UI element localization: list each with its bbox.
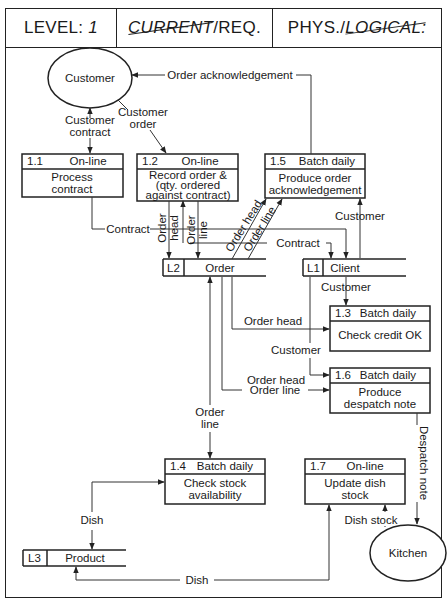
process-1-3[interactable]: 1.3 Batch daily Check credit OK (330, 306, 430, 351)
svg-text:head: head (168, 215, 180, 241)
data-flow-diagram: Customer Kitchen 1.1 On-line Process con… (0, 0, 448, 606)
svg-text:Contract: Contract (276, 237, 320, 249)
svg-text:Batch daily: Batch daily (360, 307, 417, 319)
svg-text:Order: Order (205, 262, 235, 274)
svg-text:line: line (197, 221, 209, 239)
flow-order-head-to-l2: Order head (156, 201, 180, 258)
svg-text:Check stock: Check stock (184, 477, 247, 489)
svg-text:Dish: Dish (185, 574, 208, 586)
svg-text:Batch daily: Batch daily (197, 460, 254, 472)
flow-order-line-to-1-4: Order line (195, 277, 225, 458)
svg-text:L1: L1 (307, 262, 320, 274)
svg-text:line: line (201, 418, 219, 430)
svg-text:Client: Client (330, 262, 360, 274)
external-kitchen[interactable]: Kitchen (370, 525, 446, 581)
svg-text:Despatch note: Despatch note (418, 426, 430, 500)
svg-text:Customer: Customer (321, 281, 371, 293)
svg-text:Order head: Order head (244, 315, 302, 327)
process-1-6[interactable]: 1.6 Batch daily Produce despatch note (330, 368, 430, 413)
flow-dish-1-7-l3: Dish (76, 505, 329, 586)
svg-text:Process: Process (51, 171, 93, 183)
svg-text:Dish: Dish (80, 514, 103, 526)
flow-customer-order: Customer order (118, 100, 168, 153)
svg-text:against contract): against contract) (145, 189, 230, 201)
svg-text:Order: Order (156, 213, 168, 243)
flow-order-to-1-6: Order head Order line (222, 277, 329, 396)
svg-text:Order line: Order line (250, 384, 301, 396)
svg-text:contract: contract (70, 126, 112, 138)
flow-contract-to-l1: Contract Contract (92, 197, 346, 258)
svg-text:1.2: 1.2 (142, 155, 158, 167)
svg-text:Contract: Contract (106, 223, 150, 235)
svg-text:Customer: Customer (118, 106, 168, 118)
svg-text:Update dish: Update dish (324, 477, 385, 489)
process-1-1[interactable]: 1.1 On-line Process contract (22, 154, 123, 197)
process-1-4[interactable]: 1.4 Batch daily Check stock availability (165, 459, 265, 504)
flow-order-line-to-l2: Order line (183, 201, 209, 258)
svg-text:despatch note: despatch note (344, 398, 416, 410)
process-type: On-line (69, 155, 106, 167)
svg-text:acknowledgement: acknowledgement (269, 184, 363, 196)
svg-text:Order acknowledgement: Order acknowledgement (167, 69, 293, 81)
svg-text:Customer: Customer (271, 344, 321, 356)
process-1-2[interactable]: 1.2 On-line Record order & (qty. ordered… (137, 154, 238, 201)
svg-text:Produce: Produce (359, 386, 402, 398)
process-1-5[interactable]: 1.5 Batch daily Produce order acknowledg… (265, 154, 365, 198)
flow-despatch-note: Despatch note (417, 413, 430, 524)
customer-label: Customer (65, 72, 115, 84)
flow-dish-stock: Dish stock (344, 505, 397, 527)
svg-text:Batch daily: Batch daily (299, 155, 356, 167)
process-id: 1.1 (27, 155, 43, 167)
svg-text:1.5: 1.5 (270, 155, 286, 167)
kitchen-label: Kitchen (389, 547, 427, 559)
svg-text:Customer: Customer (65, 114, 115, 126)
svg-text:stock: stock (342, 489, 369, 501)
flow-dish-1-4-l3: Dish (80, 482, 164, 549)
svg-text:Check credit OK: Check credit OK (338, 329, 422, 341)
svg-text:Produce order: Produce order (279, 172, 352, 184)
svg-text:1.7: 1.7 (310, 460, 326, 472)
svg-text:Order: Order (185, 215, 197, 245)
external-customer[interactable]: Customer (48, 48, 132, 108)
svg-text:Dish stock: Dish stock (344, 514, 397, 526)
svg-text:1.4: 1.4 (170, 460, 187, 472)
svg-text:order: order (130, 118, 157, 130)
svg-text:availability: availability (188, 489, 241, 501)
svg-text:L3: L3 (28, 552, 41, 564)
svg-text:Batch daily: Batch daily (360, 369, 417, 381)
flow-customer-to-1-3: Customer (321, 277, 371, 305)
store-l1-client[interactable]: L1 Client (303, 259, 406, 276)
store-l2-order[interactable]: L2 Order (163, 259, 266, 276)
svg-text:L2: L2 (167, 262, 180, 274)
svg-text:Product: Product (65, 552, 105, 564)
process-1-7[interactable]: 1.7 On-line Update dish stock (305, 459, 405, 504)
svg-text:contract: contract (52, 183, 94, 195)
svg-text:Customer: Customer (335, 210, 385, 222)
flow-order-head-to-1-3: Order head (232, 277, 329, 329)
svg-text:On-line: On-line (181, 155, 218, 167)
svg-text:1.6: 1.6 (335, 369, 351, 381)
svg-text:1.3: 1.3 (335, 307, 351, 319)
store-l3-product[interactable]: L3 Product (23, 550, 126, 566)
svg-text:Order: Order (195, 406, 225, 418)
flow-customer-contract: Customer contract (65, 108, 115, 153)
svg-text:On-line: On-line (346, 460, 383, 472)
